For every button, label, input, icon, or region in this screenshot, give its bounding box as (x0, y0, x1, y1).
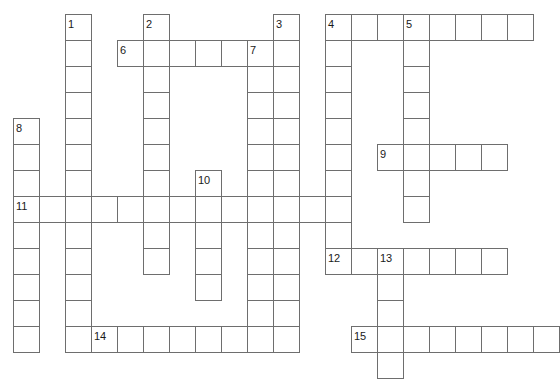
grid-cell[interactable] (195, 170, 222, 197)
grid-cell[interactable] (247, 92, 274, 119)
grid-cell[interactable] (195, 40, 222, 67)
grid-cell[interactable] (325, 170, 352, 197)
grid-cell[interactable] (13, 144, 40, 171)
grid-cell[interactable] (91, 326, 118, 353)
grid-cell[interactable] (65, 300, 92, 327)
grid-cell[interactable] (273, 40, 300, 67)
grid-cell[interactable] (13, 326, 40, 353)
grid-cell[interactable] (273, 118, 300, 145)
grid-cell[interactable] (299, 196, 326, 223)
grid-cell[interactable] (65, 66, 92, 93)
grid-cell[interactable] (65, 326, 92, 353)
grid-cell[interactable] (351, 14, 378, 41)
grid-cell[interactable] (65, 92, 92, 119)
grid-cell[interactable] (221, 326, 248, 353)
grid-cell[interactable] (403, 66, 430, 93)
grid-cell[interactable] (325, 144, 352, 171)
grid-cell[interactable] (455, 144, 482, 171)
grid-cell[interactable] (39, 196, 66, 223)
grid-cell[interactable] (247, 170, 274, 197)
grid-cell[interactable] (273, 300, 300, 327)
grid-cell[interactable] (65, 40, 92, 67)
grid-cell[interactable] (169, 196, 196, 223)
grid-cell[interactable] (13, 196, 40, 223)
grid-cell[interactable] (13, 118, 40, 145)
grid-cell[interactable] (429, 326, 456, 353)
grid-cell[interactable] (403, 118, 430, 145)
grid-cell[interactable] (273, 326, 300, 353)
grid-cell[interactable] (325, 14, 352, 41)
grid-cell[interactable] (13, 222, 40, 249)
grid-cell[interactable] (533, 326, 560, 353)
grid-cell[interactable] (403, 248, 430, 275)
grid-cell[interactable] (247, 222, 274, 249)
grid-cell[interactable] (455, 326, 482, 353)
grid-cell[interactable] (481, 326, 508, 353)
grid-cell[interactable] (65, 274, 92, 301)
grid-cell[interactable] (65, 144, 92, 171)
grid-cell[interactable] (13, 248, 40, 275)
grid-cell[interactable] (377, 14, 404, 41)
grid-cell[interactable] (65, 170, 92, 197)
grid-cell[interactable] (377, 300, 404, 327)
grid-cell[interactable] (143, 14, 170, 41)
grid-cell[interactable] (65, 118, 92, 145)
grid-cell[interactable] (403, 144, 430, 171)
grid-cell[interactable] (117, 196, 144, 223)
grid-cell[interactable] (143, 222, 170, 249)
grid-cell[interactable] (273, 14, 300, 41)
grid-cell[interactable] (247, 144, 274, 171)
grid-cell[interactable] (273, 248, 300, 275)
grid-cell[interactable] (143, 40, 170, 67)
grid-cell[interactable] (403, 40, 430, 67)
grid-cell[interactable] (507, 326, 534, 353)
grid-cell[interactable] (169, 40, 196, 67)
grid-cell[interactable] (117, 326, 144, 353)
grid-cell[interactable] (247, 326, 274, 353)
grid-cell[interactable] (247, 118, 274, 145)
grid-cell[interactable] (143, 92, 170, 119)
grid-cell[interactable] (429, 248, 456, 275)
grid-cell[interactable] (325, 118, 352, 145)
grid-cell[interactable] (377, 274, 404, 301)
grid-cell[interactable] (247, 196, 274, 223)
grid-cell[interactable] (65, 14, 92, 41)
grid-cell[interactable] (195, 274, 222, 301)
grid-cell[interactable] (481, 248, 508, 275)
grid-cell[interactable] (403, 170, 430, 197)
grid-cell[interactable] (455, 248, 482, 275)
grid-cell[interactable] (351, 248, 378, 275)
grid-cell[interactable] (221, 196, 248, 223)
grid-cell[interactable] (325, 92, 352, 119)
grid-cell[interactable] (195, 326, 222, 353)
grid-cell[interactable] (13, 170, 40, 197)
grid-cell[interactable] (143, 118, 170, 145)
grid-cell[interactable] (325, 66, 352, 93)
grid-cell[interactable] (273, 66, 300, 93)
grid-cell[interactable] (403, 92, 430, 119)
grid-cell[interactable] (273, 144, 300, 171)
grid-cell[interactable] (377, 144, 404, 171)
grid-cell[interactable] (377, 248, 404, 275)
grid-cell[interactable] (325, 196, 352, 223)
grid-cell[interactable] (325, 222, 352, 249)
grid-cell[interactable] (195, 222, 222, 249)
grid-cell[interactable] (351, 326, 378, 353)
grid-cell[interactable] (143, 66, 170, 93)
grid-cell[interactable] (273, 92, 300, 119)
grid-cell[interactable] (403, 196, 430, 223)
grid-cell[interactable] (429, 14, 456, 41)
grid-cell[interactable] (143, 326, 170, 353)
grid-cell[interactable] (481, 144, 508, 171)
grid-cell[interactable] (65, 248, 92, 275)
grid-cell[interactable] (195, 248, 222, 275)
grid-cell[interactable] (455, 14, 482, 41)
grid-cell[interactable] (507, 14, 534, 41)
grid-cell[interactable] (247, 274, 274, 301)
grid-cell[interactable] (247, 248, 274, 275)
grid-cell[interactable] (13, 300, 40, 327)
grid-cell[interactable] (403, 326, 430, 353)
grid-cell[interactable] (247, 300, 274, 327)
grid-cell[interactable] (169, 326, 196, 353)
grid-cell[interactable] (247, 66, 274, 93)
